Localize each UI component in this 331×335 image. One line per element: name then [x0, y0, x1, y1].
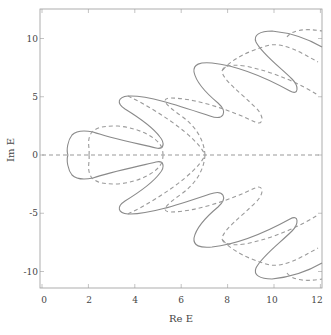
dashed-contour-lower-5	[128, 155, 205, 214]
x-tick-label: 10	[266, 295, 278, 305]
dashed-contour-upper-4	[287, 30, 322, 37]
dashed-contour-upper-2	[165, 65, 318, 155]
dashed-contour-lower-4	[287, 273, 322, 280]
dashed-contour-upper-3	[223, 45, 318, 70]
x-axis-label: Re E	[169, 313, 193, 324]
x-tick-label: 2	[86, 295, 92, 305]
dashed-contour-lower-3	[223, 240, 318, 265]
contour-plot: 0 2 4 6 8 10 12 Re E 10 5 0 -5 -10 Im E	[0, 0, 331, 335]
y-tick-label: 10	[27, 34, 39, 44]
plot-frame	[40, 9, 322, 288]
y-tick-label: -10	[24, 267, 39, 277]
x-tick-label: 6	[178, 295, 184, 305]
y-tick-label: 5	[32, 92, 38, 102]
x-axis: 0 2 4 6 8 10 12 Re E	[41, 9, 323, 324]
x-tick-label: 8	[224, 295, 230, 305]
x-tick-label: 4	[132, 295, 138, 305]
dashed-contour-lower-2	[165, 155, 318, 245]
solid-contour-lower	[67, 155, 322, 279]
x-tick-label: 12	[311, 295, 322, 305]
x-tick-label: 0	[41, 295, 47, 305]
y-tick-label: 0	[32, 150, 38, 160]
dashed-contour-upper-5	[128, 96, 205, 155]
y-tick-label: -5	[29, 208, 38, 218]
y-axis-label: Im E	[5, 138, 16, 162]
solid-contour-upper	[67, 31, 322, 155]
